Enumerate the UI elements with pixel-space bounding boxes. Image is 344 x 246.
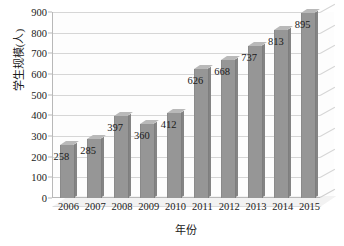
x-axis-tick-label: 2011 bbox=[192, 201, 213, 212]
y-axis-tick-label: 0 bbox=[17, 193, 47, 204]
bar-front-face bbox=[194, 69, 209, 198]
bar bbox=[274, 30, 287, 198]
bar bbox=[248, 46, 261, 198]
y-axis-tick-label: 800 bbox=[17, 27, 47, 38]
bars-layer: 258285397360412626668737813895 bbox=[52, 12, 320, 198]
bar bbox=[194, 69, 207, 198]
x-axis-tick-label: 2012 bbox=[219, 201, 240, 212]
x-axis-tick-label: 2008 bbox=[112, 201, 133, 212]
y-axis-tick-label: 900 bbox=[17, 7, 47, 18]
y-axis-tick-label: 600 bbox=[17, 69, 47, 80]
bar-data-label: 626 bbox=[181, 75, 209, 86]
bar-data-label: 895 bbox=[289, 19, 317, 30]
x-axis-tick-label: 2009 bbox=[138, 201, 159, 212]
y-axis-tick-label: 300 bbox=[17, 131, 47, 142]
y-axis-tick-label: 200 bbox=[17, 151, 47, 162]
bar-front-face bbox=[248, 46, 263, 198]
bar-data-label: 412 bbox=[155, 119, 183, 130]
bar bbox=[221, 60, 234, 198]
bar-data-label: 813 bbox=[262, 36, 290, 47]
x-axis-tick-label: 2006 bbox=[58, 201, 79, 212]
bar-data-label: 258 bbox=[47, 151, 75, 162]
y-axis-tick-label: 500 bbox=[17, 89, 47, 100]
bar-data-label: 737 bbox=[235, 52, 263, 63]
bar-front-face bbox=[221, 60, 236, 198]
y-axis-tick-label: 400 bbox=[17, 110, 47, 121]
bar-chart: 学生规模(人) 0100200300400500600700800900 258… bbox=[0, 0, 344, 246]
x-axis-tick-label: 2014 bbox=[272, 201, 293, 212]
y-axis-tick-label: 700 bbox=[17, 48, 47, 59]
bar-front-face bbox=[301, 13, 316, 198]
bar-data-label: 668 bbox=[208, 66, 236, 77]
x-axis-tick-labels: 2006200720082009201020112012201320142015 bbox=[52, 201, 334, 217]
bar-data-label: 360 bbox=[128, 130, 156, 141]
bar-front-face bbox=[274, 30, 289, 198]
x-axis-tick-label: 2015 bbox=[299, 201, 320, 212]
y-axis-tick-labels: 0100200300400500600700800900 bbox=[17, 12, 47, 198]
bar-data-label: 397 bbox=[101, 122, 129, 133]
y-axis-tick-label: 100 bbox=[17, 172, 47, 183]
plot-area: 258285397360412626668737813895 bbox=[52, 12, 334, 198]
x-axis-tick-label: 2013 bbox=[246, 201, 267, 212]
x-axis-title: 年份 bbox=[52, 221, 320, 237]
bar-data-label: 285 bbox=[74, 145, 102, 156]
x-axis-tick-label: 2007 bbox=[85, 201, 106, 212]
bar bbox=[301, 13, 314, 198]
x-axis-tick-label: 2010 bbox=[165, 201, 186, 212]
